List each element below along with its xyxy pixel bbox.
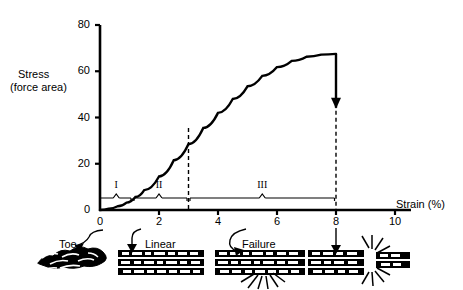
burst-icon — [241, 273, 285, 289]
axes-group — [95, 25, 411, 215]
stress-strain-curve — [100, 54, 336, 210]
toe-fiber-illustration — [38, 230, 107, 271]
plot-canvas — [0, 0, 463, 290]
annotation-group — [189, 54, 342, 210]
linear-fiber-illustration — [118, 229, 204, 275]
rupture-burst-icon — [362, 235, 390, 286]
region-bracket-I — [100, 194, 131, 201]
region-bracket-group — [100, 194, 335, 201]
curve-group — [100, 54, 336, 210]
region-bracket-III — [190, 194, 335, 201]
failure-fiber-illustration — [215, 229, 305, 289]
rupture-fiber-illustration — [308, 228, 410, 286]
stress-strain-figure: Stress (force area) Strain (%) 020406080… — [0, 0, 463, 290]
